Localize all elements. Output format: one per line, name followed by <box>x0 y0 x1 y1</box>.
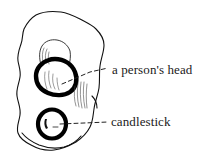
sketch-figure: a person's head candlestick <box>0 0 213 163</box>
wisp-3 <box>83 82 85 108</box>
head-interior-hatching-group <box>45 71 59 90</box>
person-head-ring <box>36 59 76 95</box>
leader-line-head-path <box>62 68 108 84</box>
wisp-2 <box>80 82 82 108</box>
annotation-label-candlestick: candlestick <box>111 114 171 130</box>
leader-line-head <box>62 68 108 84</box>
blob-outline-path <box>17 11 104 150</box>
person-head-ring-path <box>36 59 76 95</box>
head-hatch-4 <box>57 78 59 90</box>
head-hatch-2 <box>49 71 51 88</box>
wisp-1 <box>77 83 79 107</box>
wisp-4 <box>86 84 87 108</box>
head-hatch-3 <box>53 74 55 89</box>
blob-outline-group <box>17 11 104 150</box>
annotation-label-person-head: a person's head <box>112 62 192 78</box>
head-hatch-1 <box>45 72 47 89</box>
candlestick-inner-mark <box>44 119 48 129</box>
candlestick-inner-mark-group <box>44 119 58 129</box>
sketch-drawing <box>0 0 213 163</box>
